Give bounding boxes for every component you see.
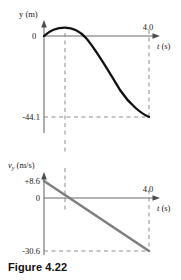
position-vs-time-graph: y (m) 0 -44.1 4.0 t(s) [0,0,181,140]
bottom-x-axis-label: t(s) [157,203,171,213]
top-x-axis-label: t(s) [157,41,171,51]
top-x-axis-label-symbol: t [157,41,160,51]
velocity-vs-time-graph: vy (m/s) +8.6 0 -30.6 4.0 t(s) [0,140,181,260]
top-x-axis-label-unit: (s) [161,41,170,51]
bottom-x-tick-max: 4.0 [143,184,154,194]
figure-caption: Figure 4.22 [8,261,67,273]
bottom-y-tick-min: -30.6 [22,246,40,256]
top-y-axis-label: y (m) [19,9,38,19]
top-y-tick-zero: 0 [32,31,36,41]
bottom-y-tick-zero: 0 [36,193,40,203]
bottom-x-axis-label-symbol: t [157,203,160,213]
velocity-line [44,181,149,251]
top-y-tick-min: -44.1 [22,112,40,122]
bottom-y-axis-label-unit: (m/s) [14,160,34,170]
bottom-x-axis [44,195,160,201]
bottom-y-axis-label: vy (m/s) [8,160,35,171]
bottom-x-axis-label-unit: (s) [161,203,170,213]
top-x-tick-max: 4.0 [143,22,154,32]
figure-4-22: y (m) 0 -44.1 4.0 t(s) vy [0,0,181,280]
top-x-axis [44,33,160,39]
position-curve [44,28,149,117]
bottom-y-axis [41,172,47,255]
bottom-y-tick-max: +8.6 [25,176,40,186]
